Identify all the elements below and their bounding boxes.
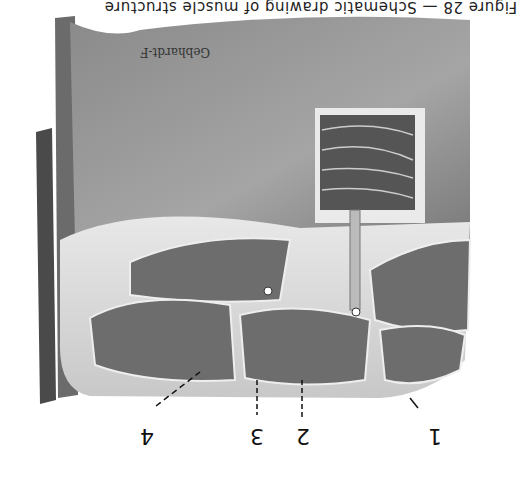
label-4: 4 <box>140 424 154 449</box>
label-2: 2 <box>296 424 310 449</box>
label-1: 1 <box>428 424 442 449</box>
label-3: 3 <box>250 424 264 449</box>
muscle-illustration: Gebhardt-F <box>0 0 525 485</box>
artist-signature: Gebhardt-F <box>140 45 210 59</box>
